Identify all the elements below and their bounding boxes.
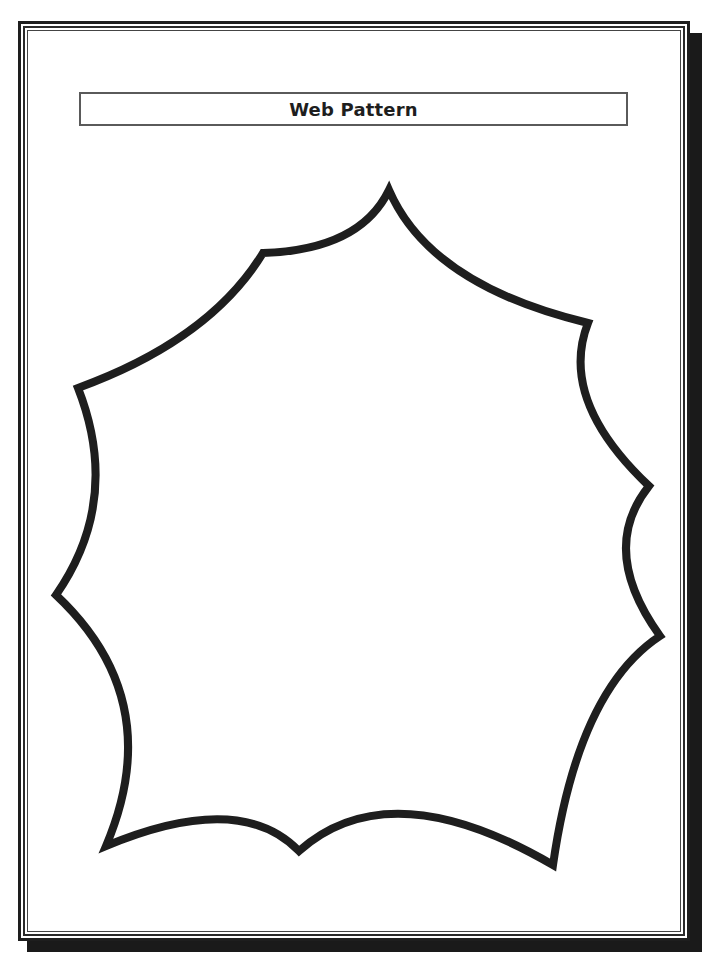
web-pattern-outline <box>0 0 715 956</box>
web-outline-path <box>56 190 660 865</box>
